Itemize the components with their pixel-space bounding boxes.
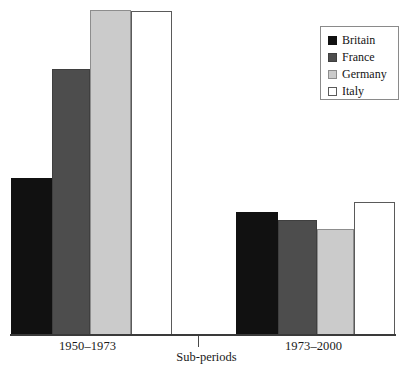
legend-label-germany: Germany: [342, 68, 387, 80]
legend-label-france: France: [342, 51, 375, 63]
bar-italy-1950-1973: [131, 11, 172, 335]
legend-item-italy: Italy: [328, 83, 398, 99]
bar-france-1973-2000: [278, 220, 317, 335]
x-axis-line: [10, 334, 396, 336]
legend-item-britain: Britain: [328, 32, 398, 48]
bar-britain-1973-2000: [236, 212, 278, 335]
legend-swatch-italy-icon: [328, 87, 337, 96]
legend-swatch-france-icon: [328, 53, 337, 62]
legend-label-britain: Britain: [342, 34, 375, 46]
legend: Britain France Germany Italy: [320, 26, 399, 100]
legend-label-italy: Italy: [342, 85, 364, 97]
x-axis-center-tick: [198, 336, 199, 347]
legend-item-france: France: [328, 49, 398, 65]
bar-britain-1950-1973: [11, 178, 52, 335]
bar-italy-1973-2000: [354, 202, 395, 335]
legend-swatch-germany-icon: [328, 70, 337, 79]
bar-germany-1973-2000: [317, 229, 354, 335]
x-axis-title: Sub-periods: [0, 350, 413, 365]
bar-france-1950-1973: [52, 69, 90, 335]
legend-swatch-britain-icon: [328, 36, 337, 45]
legend-item-germany: Germany: [328, 66, 398, 82]
bar-germany-1950-1973: [90, 10, 131, 335]
bar-chart: 1950–1973 1973–2000 Sub-periods Britain …: [0, 0, 413, 374]
